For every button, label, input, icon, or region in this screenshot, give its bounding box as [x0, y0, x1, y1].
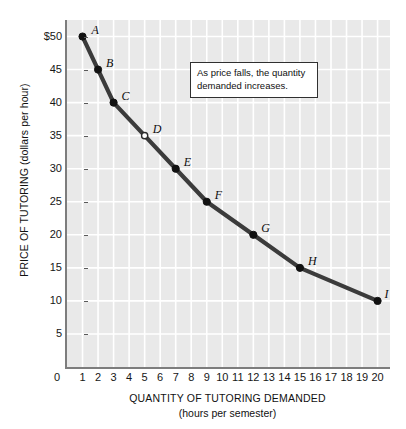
y-tick-label: 15 — [28, 262, 62, 273]
data-point-label-i: I — [385, 288, 389, 300]
data-point-label-e: E — [184, 156, 191, 168]
y-axis-line — [65, 20, 67, 369]
x-axis-title: QUANTITY OF TUTORING DEMANDED — [60, 392, 395, 404]
data-point-label-f: F — [215, 189, 222, 201]
y-axis-title: PRICE OF TUTORING (dollars per hour) — [18, 60, 30, 300]
data-point-label-a: A — [92, 24, 99, 36]
y-tick-label: 20 — [28, 229, 62, 240]
origin-label: 0 — [26, 372, 60, 383]
annotation-callout: As price falls, the quantity demanded in… — [190, 62, 318, 98]
y-tick-label: 30 — [28, 163, 62, 174]
y-tick-label: 40 — [28, 97, 62, 108]
y-tick-label: 10 — [28, 295, 62, 306]
demand-curve-figure: 51015202530354045$500 123456789101112131… — [0, 0, 406, 429]
y-tick-mark — [84, 136, 88, 137]
y-tick-mark — [84, 202, 88, 203]
data-point-label-c: C — [122, 90, 130, 102]
y-tick-mark — [84, 235, 88, 236]
y-tick-mark — [84, 70, 88, 71]
y-tick-mark — [84, 169, 88, 170]
data-point-label-g: G — [261, 222, 270, 234]
data-point-label-d: D — [153, 123, 162, 135]
y-tick-mark — [84, 301, 88, 302]
y-tick-label: 5 — [28, 328, 62, 339]
y-tick-label: 25 — [28, 196, 62, 207]
y-tick-label: 35 — [28, 130, 62, 141]
x-axis-line — [65, 367, 390, 369]
y-tick-label: 45 — [28, 64, 62, 75]
y-tick-mark — [84, 37, 88, 38]
data-point-label-b: B — [106, 57, 113, 69]
x-tick-label: 20 — [367, 372, 389, 383]
y-tick-label: $50 — [28, 31, 62, 42]
y-tick-mark — [84, 103, 88, 104]
y-tick-mark — [84, 268, 88, 269]
y-tick-mark — [84, 334, 88, 335]
x-axis-subtitle: (hours per semester) — [60, 407, 395, 419]
x-axis-title-block: QUANTITY OF TUTORING DEMANDED (hours per… — [60, 392, 395, 419]
data-point-label-h: H — [308, 255, 317, 267]
